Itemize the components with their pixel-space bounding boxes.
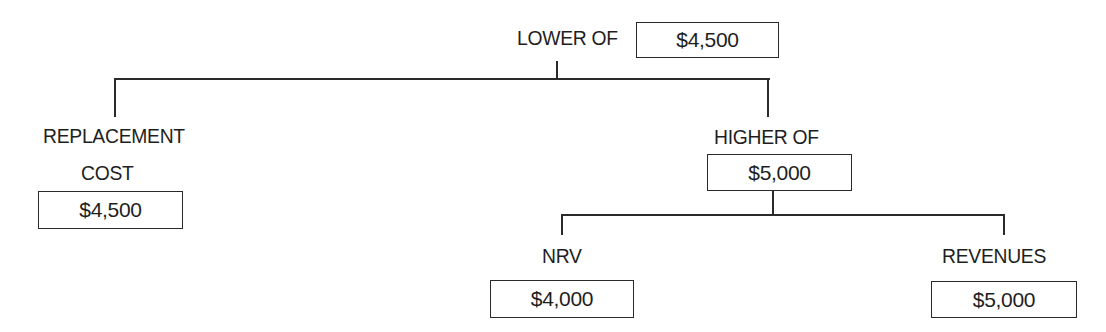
replacement-cost-label-line2: COST [81, 162, 134, 184]
replacement-cost-value-box: $4,500 [38, 191, 183, 229]
level2-branch-line [562, 214, 1005, 216]
revenues-label: REVENUES [942, 245, 1046, 267]
replacement-connector [114, 78, 116, 117]
replacement-cost-value: $4,500 [79, 198, 141, 222]
higher-of-value: $5,000 [748, 161, 810, 185]
revenues-value-box: $5,000 [931, 281, 1077, 318]
higher-of-label: HIGHER OF [714, 126, 819, 148]
root-value-box: $4,500 [636, 22, 779, 58]
higher-of-connector [767, 78, 769, 117]
replacement-cost-label-line1: REPLACEMENT [43, 125, 185, 147]
nrv-label: NRV [542, 245, 582, 267]
revenues-connector [1003, 214, 1005, 235]
nrv-value-box: $4,000 [490, 280, 634, 318]
revenues-value: $5,000 [973, 288, 1035, 312]
higher-of-down-connector [772, 190, 774, 216]
level1-branch-line [115, 78, 770, 80]
nrv-connector [561, 214, 563, 235]
higher-of-value-box: $5,000 [707, 154, 852, 191]
nrv-value: $4,000 [531, 287, 593, 311]
root-value: $4,500 [676, 28, 738, 52]
root-label: LOWER OF [517, 27, 618, 49]
